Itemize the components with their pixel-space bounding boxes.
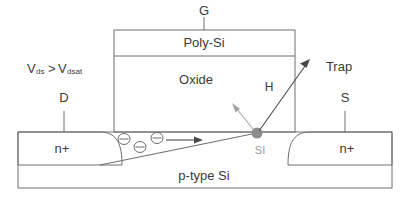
depletion-channel-line bbox=[100, 133, 257, 165]
electron-charge-icon bbox=[151, 133, 163, 144]
bias-sub1: ds bbox=[36, 67, 44, 76]
hydrogen-label: H bbox=[265, 80, 274, 94]
n-plus-left-region bbox=[18, 132, 122, 165]
poly-si-label: Poly-Si bbox=[183, 35, 224, 50]
electron-charge-icon bbox=[134, 142, 146, 153]
trap-label: Trap bbox=[326, 59, 352, 74]
drain-terminal-label: D bbox=[59, 90, 68, 105]
electron-charge-icon bbox=[118, 134, 130, 145]
substrate-label: p-type Si bbox=[178, 168, 229, 183]
si-site-label: SI bbox=[255, 144, 265, 156]
hydrogen-release-arrow-icon bbox=[232, 103, 253, 129]
trap-arrow-icon bbox=[259, 59, 310, 131]
bias-v2: V bbox=[58, 61, 67, 76]
oxide-label: Oxide bbox=[179, 72, 213, 87]
mosfet-cross-section-diagram: G Poly-Si Oxide V ds > V dsat D S n+ n+ … bbox=[0, 0, 409, 201]
electron-flow-arrow-icon bbox=[166, 137, 203, 144]
n-plus-left-label: n+ bbox=[55, 141, 70, 156]
bias-sub2: dsat bbox=[67, 67, 83, 76]
bias-condition-label: V ds > V dsat bbox=[27, 61, 83, 76]
bias-v1: V bbox=[27, 61, 36, 76]
diagram-canvas: G Poly-Si Oxide V ds > V dsat D S n+ n+ … bbox=[0, 0, 409, 201]
bias-gt: > bbox=[48, 61, 56, 76]
gate-label: G bbox=[199, 3, 209, 18]
n-plus-right-label: n+ bbox=[340, 141, 355, 156]
source-terminal-label: S bbox=[341, 90, 350, 105]
